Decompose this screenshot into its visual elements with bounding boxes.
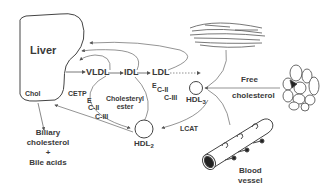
biliary-output-label: Biliary cholesterol + Bile acids xyxy=(18,128,78,168)
ldl-label: LDL xyxy=(152,68,170,77)
adipocyte-cluster-icon xyxy=(283,65,319,111)
biliary-line1: Biliary xyxy=(18,128,78,138)
cholesteryl-ester-line1: Cholesteryl xyxy=(104,95,146,102)
lcat-label: LCAT xyxy=(180,125,198,132)
free-cholesterol-line1: Free xyxy=(241,76,258,84)
blood-vessel-line1: Blood xyxy=(239,167,262,175)
muscle-tissue-icon xyxy=(190,23,265,47)
hdl2-sub: 2 xyxy=(150,143,153,149)
cetp-label: CETP xyxy=(68,90,87,97)
idl-label: IDL xyxy=(124,68,139,77)
hdl3-sub: 3 xyxy=(202,99,205,105)
biliary-plus: + xyxy=(18,148,78,158)
cholesteryl-ester-label: Cholesteryl ester xyxy=(104,95,146,110)
vldl-label: VLDL xyxy=(86,68,110,77)
liver-label: Liver xyxy=(30,45,56,56)
cholesteryl-ester-line2: ester xyxy=(104,103,146,110)
apo-e-left-label: E xyxy=(87,97,92,104)
apo-cii-right-label: C-II xyxy=(157,86,168,93)
hdl3-label: HDL3 xyxy=(186,96,206,105)
chol-label: Chol xyxy=(25,90,41,97)
hdl3-base: HDL xyxy=(186,95,202,104)
apo-ciii-left-label: C-III xyxy=(95,113,108,120)
apo-e-right-label: E xyxy=(152,82,157,89)
biliary-line3: Bile acids xyxy=(18,158,78,168)
hdl3-particle-icon xyxy=(190,82,203,95)
blood-vessel-icon xyxy=(200,119,273,172)
blood-vessel-line2: vessel xyxy=(238,177,262,185)
biliary-line2: cholesterol xyxy=(18,138,78,148)
hdl2-label: HDL2 xyxy=(134,140,154,149)
apo-cii-left-label: C-II xyxy=(88,104,99,111)
hdl2-base: HDL xyxy=(134,139,150,148)
free-cholesterol-line2: cholesterol xyxy=(232,92,275,100)
hdl2-particle-icon xyxy=(135,120,153,138)
liver-shape xyxy=(20,14,84,101)
apo-ciii-right-label: C-III xyxy=(164,94,177,101)
